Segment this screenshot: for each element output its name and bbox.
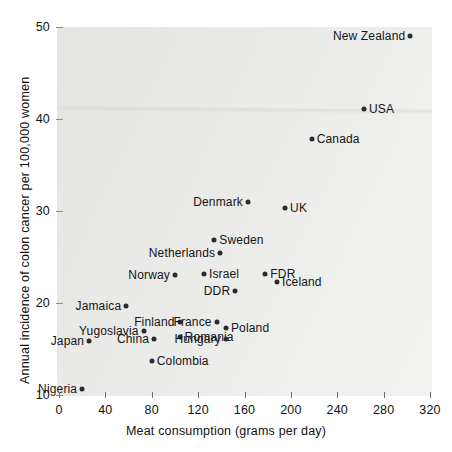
y-tick-mark	[56, 211, 63, 212]
y-tick-mark	[56, 27, 63, 28]
data-point	[223, 336, 228, 341]
data-point-label: DDR	[204, 284, 230, 298]
data-point-label: Poland	[231, 321, 269, 335]
data-point-label: New Zealand	[333, 29, 405, 43]
x-tick-label: 120	[187, 403, 208, 417]
x-tick-mark	[245, 392, 246, 398]
x-tick-label: 0	[55, 403, 62, 417]
data-point	[152, 336, 157, 341]
data-point	[274, 279, 279, 284]
data-point-label: Iceland	[282, 275, 322, 289]
y-tick-mark	[56, 395, 63, 396]
x-tick-label: 320	[419, 403, 440, 417]
data-point	[263, 271, 268, 276]
data-point-label: France	[173, 315, 211, 329]
data-point-label: Canada	[317, 132, 360, 146]
x-axis-title: Meat consumption (grams per day)	[0, 424, 452, 438]
x-tick-label: 200	[280, 403, 301, 417]
data-point-label: Colombia	[157, 354, 209, 368]
data-point-label: Finland	[134, 315, 174, 329]
data-point	[408, 34, 413, 39]
data-point	[80, 387, 85, 392]
data-point-label: Norway	[128, 268, 170, 282]
x-tick-label: 80	[145, 403, 159, 417]
scatter-plot-figure: New ZealandUSACanadaDenmarkUKSwedenNethe…	[0, 0, 452, 452]
x-tick-label: 160	[234, 403, 255, 417]
x-tick-mark	[430, 392, 431, 398]
data-point-label: Hungary	[175, 332, 221, 346]
data-point	[149, 358, 154, 363]
data-point	[172, 273, 177, 278]
data-point-label: Netherlands	[149, 246, 215, 260]
data-point	[218, 251, 223, 256]
data-point-label: Jamaica	[76, 299, 122, 313]
y-tick-mark	[56, 303, 63, 304]
y-axis-title: Annual incidence of colon cancer per 100…	[18, 77, 32, 384]
data-point-label: Japan	[51, 334, 84, 348]
data-point	[201, 271, 206, 276]
data-point	[245, 199, 250, 204]
data-point	[309, 137, 314, 142]
data-point	[233, 289, 238, 294]
y-tick-mark	[56, 119, 63, 120]
data-point-label: Denmark	[193, 195, 243, 209]
y-tick-label: 10	[20, 388, 50, 402]
x-tick-mark	[105, 392, 106, 398]
x-tick-label: 240	[327, 403, 348, 417]
x-tick-mark	[291, 392, 292, 398]
data-point	[214, 320, 219, 325]
data-point	[87, 338, 92, 343]
x-tick-mark	[384, 392, 385, 398]
x-tick-mark	[337, 392, 338, 398]
data-point	[361, 106, 366, 111]
x-tick-label: 280	[373, 403, 394, 417]
data-point-label: UK	[290, 201, 307, 215]
data-point-label: China	[117, 332, 149, 346]
plot-area: New ZealandUSACanadaDenmarkUKSwedenNethe…	[57, 27, 432, 396]
y-tick-label: 50	[20, 20, 50, 34]
x-tick-mark	[152, 392, 153, 398]
x-tick-mark	[198, 392, 199, 398]
data-point	[212, 237, 217, 242]
data-point-label: Israel	[209, 267, 239, 281]
data-point	[124, 303, 129, 308]
data-point-label: USA	[369, 102, 394, 116]
x-tick-label: 40	[98, 403, 112, 417]
data-point	[283, 206, 288, 211]
data-point-label: Sweden	[219, 233, 263, 247]
